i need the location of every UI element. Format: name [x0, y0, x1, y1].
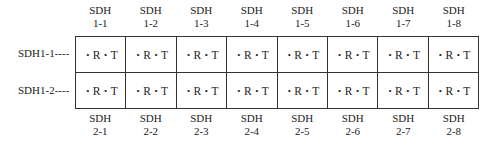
port-label: SDH2-7	[378, 112, 429, 138]
dot-icon: •	[457, 50, 461, 60]
port-cell: •R•T	[176, 73, 226, 108]
port-cell: •R•T	[277, 37, 327, 72]
dot-icon: •	[255, 86, 259, 96]
dot-icon: •	[237, 50, 241, 60]
dot-icon: •	[205, 86, 209, 96]
dot-icon: •	[306, 86, 310, 96]
port-label: SDH2-8	[429, 112, 480, 138]
row-label-sdh1-2: SDH1-2----	[18, 84, 69, 96]
port-cell: •R•T	[125, 37, 175, 72]
port-cell: •R•T	[428, 37, 478, 72]
port-cell: •R•T	[226, 73, 276, 108]
dot-icon: •	[457, 86, 461, 96]
port-cell: •R•T	[327, 37, 377, 72]
dot-icon: •	[104, 50, 108, 60]
port-label: SDH2-6	[328, 112, 379, 138]
port-cell: •R•T	[377, 37, 427, 72]
port-label: SDH2-1	[75, 112, 126, 138]
bottom-port-labels: SDH2-1 SDH2-2 SDH2-3 SDH2-4 SDH2-5 SDH2-…	[75, 112, 479, 138]
dot-icon: •	[137, 86, 141, 96]
port-grid: •R•T •R•T •R•T •R•T •R•T •R•T •R•T •R•T …	[75, 36, 479, 109]
port-cell: •R•T	[76, 73, 125, 108]
port-label: SDH1-1	[75, 4, 126, 30]
port-label: SDH1-5	[277, 4, 328, 30]
dot-icon: •	[338, 50, 342, 60]
grid-row-1: •R•T •R•T •R•T •R•T •R•T •R•T •R•T •R•T	[76, 37, 478, 72]
dot-icon: •	[356, 86, 360, 96]
dot-icon: •	[104, 86, 108, 96]
port-label: SDH2-4	[227, 112, 278, 138]
port-label: SDH2-5	[277, 112, 328, 138]
dot-icon: •	[154, 50, 158, 60]
dot-icon: •	[288, 86, 292, 96]
dot-icon: •	[154, 86, 158, 96]
port-label: SDH1-8	[429, 4, 480, 30]
port-label: SDH1-6	[328, 4, 379, 30]
port-cell: •R•T	[176, 37, 226, 72]
dot-icon: •	[205, 50, 209, 60]
port-cell: •R•T	[226, 37, 276, 72]
dot-icon: •	[406, 50, 410, 60]
grid-row-2: •R•T •R•T •R•T •R•T •R•T •R•T •R•T •R•T	[76, 72, 478, 108]
dot-icon: •	[439, 50, 443, 60]
port-cell: •R•T	[125, 73, 175, 108]
port-label: SDH1-4	[227, 4, 278, 30]
dot-icon: •	[388, 50, 392, 60]
port-cell: •R•T	[327, 73, 377, 108]
dot-icon: •	[137, 50, 141, 60]
port-label: SDH2-2	[126, 112, 177, 138]
dot-icon: •	[187, 50, 191, 60]
dot-icon: •	[306, 50, 310, 60]
port-cell: •R•T	[277, 73, 327, 108]
dot-icon: •	[86, 50, 90, 60]
row-label-sdh1-1: SDH1-1----	[18, 47, 69, 59]
dot-icon: •	[187, 86, 191, 96]
dot-icon: •	[338, 86, 342, 96]
port-label: SDH1-2	[126, 4, 177, 30]
port-label: SDH1-7	[378, 4, 429, 30]
dot-icon: •	[406, 86, 410, 96]
dot-icon: •	[255, 50, 259, 60]
dot-icon: •	[388, 86, 392, 96]
port-cell: •R•T	[76, 37, 125, 72]
port-cell: •R•T	[377, 73, 427, 108]
top-port-labels: SDH1-1 SDH1-2 SDH1-3 SDH1-4 SDH1-5 SDH1-…	[75, 4, 479, 30]
port-label: SDH1-3	[176, 4, 227, 30]
dot-icon: •	[439, 86, 443, 96]
dot-icon: •	[237, 86, 241, 96]
dot-icon: •	[288, 50, 292, 60]
port-cell: •R•T	[428, 73, 478, 108]
dot-icon: •	[356, 50, 360, 60]
dot-icon: •	[86, 86, 90, 96]
port-label: SDH2-3	[176, 112, 227, 138]
